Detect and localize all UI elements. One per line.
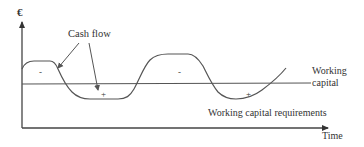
sign-minus-2: - [178, 67, 181, 77]
cash-flow-arrow-1 [58, 43, 79, 68]
working-capital-label-line1: Working [312, 65, 347, 76]
sign-plus-1: + [101, 89, 106, 99]
sign-minus-1: - [39, 67, 42, 77]
working-capital-label-line2: capital [312, 77, 339, 88]
wcr-label: Working capital requirements [208, 107, 327, 118]
working-capital-diagram: € Cash flow - + - + Working capital Work… [0, 0, 364, 147]
cash-flow-label: Cash flow [68, 28, 111, 39]
y-axis-symbol: € [17, 6, 23, 18]
time-label: Time [322, 130, 343, 141]
sign-plus-2: + [246, 89, 251, 99]
diagram-svg: € Cash flow - + - + Working capital Work… [0, 0, 364, 147]
cash-flow-arrow-2 [89, 43, 98, 90]
